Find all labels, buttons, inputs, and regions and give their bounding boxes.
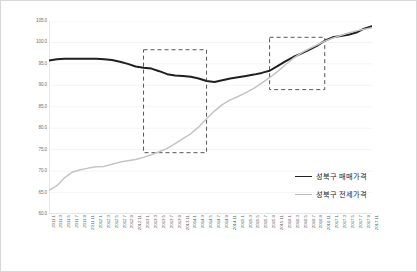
series-line-2 (49, 28, 372, 191)
x-tick-label: 2013.1 (145, 215, 150, 228)
x-tick-label: 2017.1 (334, 215, 339, 228)
x-tick-label: 2016.5 (303, 215, 308, 228)
legend-item-1: 성북구 매매가격 (295, 168, 367, 184)
x-tick-label: 2012.5 (114, 215, 119, 228)
x-tick-label: 2016.3 (295, 215, 300, 228)
x-tick-label: 2014.11 (232, 215, 237, 230)
x-tick-label: 2011.9 (82, 215, 87, 228)
x-tick-label: 2017.9 (366, 215, 371, 228)
legend-label: 성북구 매매가격 (316, 171, 367, 181)
x-tick-label: 2016.7 (311, 215, 316, 228)
x-tick-label: 2014.3 (200, 215, 205, 228)
x-tick-label: 2013.7 (169, 215, 174, 228)
x-tick-label: 2011.11 (90, 215, 95, 230)
x-tick-label: 2015.5 (255, 215, 260, 228)
x-tick-label: 2016.1 (287, 215, 292, 228)
highlight-box-1 (144, 50, 207, 153)
x-tick-label: 2011.3 (58, 215, 63, 228)
x-tick-label: 2015.3 (248, 215, 253, 228)
y-tick-label: 90.0 (38, 82, 47, 87)
x-tick-label: 2011.5 (66, 215, 71, 228)
x-tick-label: 2017.7 (358, 215, 363, 228)
chart-figure: 105.0100.095.090.085.080.075.070.065.060… (23, 10, 396, 263)
series-line-1 (49, 26, 372, 82)
chart-frame: 105.0100.095.090.085.080.075.070.065.060… (0, 0, 417, 272)
y-tick-label: 65.0 (38, 190, 47, 195)
y-tick-label: 105.0 (36, 18, 47, 23)
x-tick-label: 2017.3 (342, 215, 347, 228)
x-tick-label: 2014.1 (192, 215, 197, 228)
x-tick-label: 2012.7 (122, 215, 127, 228)
x-tick-label: 2011.1 (51, 215, 56, 228)
y-tick-label: 75.0 (38, 147, 47, 152)
x-tick-label: 2013.9 (177, 215, 182, 228)
y-tick-label: 95.0 (38, 61, 47, 66)
x-tick-label: 2014.5 (208, 215, 213, 228)
x-tick-label: 2012.11 (137, 215, 142, 230)
legend-label: 성북구 전세가격 (316, 189, 367, 199)
x-tick-label: 2017.11 (374, 215, 379, 230)
y-tick-label: 100.0 (36, 39, 47, 44)
x-tick-label: 2011.7 (74, 215, 79, 228)
legend-item-2: 성북구 전세가격 (295, 186, 367, 202)
y-axis: 105.0100.095.090.085.080.075.070.065.060… (23, 10, 47, 215)
x-tick-label: 2014.9 (224, 215, 229, 228)
x-tick-label: 2015.7 (263, 215, 268, 228)
x-tick-label: 2012.9 (129, 215, 134, 228)
x-tick-label: 2015.9 (271, 215, 276, 228)
legend-line-icon (295, 176, 312, 177)
x-tick-label: 2014.7 (216, 215, 221, 228)
x-tick-label: 2016.9 (318, 215, 323, 228)
x-tick-label: 2012.3 (106, 215, 111, 228)
y-tick-label: 60.0 (38, 211, 47, 216)
legend-line-icon (295, 194, 312, 195)
x-tick-label: 2013.11 (185, 215, 190, 230)
x-tick-label: 2015.11 (279, 215, 284, 230)
x-axis: 2011.12011.32011.52011.72011.92011.11201… (49, 215, 372, 261)
chart-legend: 성북구 매매가격성북구 전세가격 (295, 168, 417, 210)
x-tick-label: 2017.5 (350, 215, 355, 228)
y-tick-label: 85.0 (38, 104, 47, 109)
x-tick-label: 2013.3 (153, 215, 158, 228)
x-tick-label: 2012.1 (98, 215, 103, 228)
y-tick-label: 80.0 (38, 125, 47, 130)
x-tick-label: 2015.1 (240, 215, 245, 228)
x-tick-label: 2013.5 (161, 215, 166, 228)
y-tick-label: 70.0 (38, 168, 47, 173)
x-tick-label: 2016.11 (326, 215, 331, 230)
